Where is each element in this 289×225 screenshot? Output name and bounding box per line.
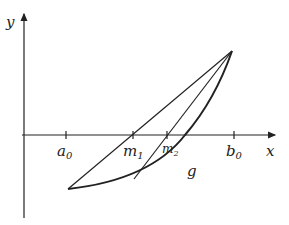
secant-line-1 [68,51,232,189]
tick-label-b0: b0 [226,142,243,161]
y-axis-label: y [5,13,15,31]
secant-method-diagram: y x a0 m1 m2 b0 g [0,0,289,225]
secant-line-2 [134,51,232,179]
curve-label-g: g [187,162,197,180]
x-axis-label: x [266,142,275,160]
tick-label-a0: a0 [57,142,73,161]
tick-label-m1: m1 [123,142,144,161]
